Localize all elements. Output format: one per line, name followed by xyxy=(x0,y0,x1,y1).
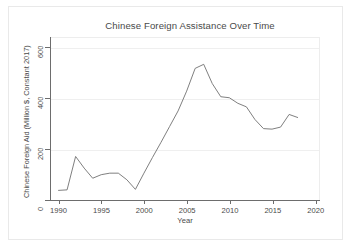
x-tick-label: 2000 xyxy=(124,206,164,215)
y-tick-mark xyxy=(45,200,50,201)
y-axis-title: Chinese Foreign Aid (Million $, Constant… xyxy=(22,45,31,198)
chart-title: Chinese Foreign Assistance Over Time xyxy=(50,20,330,31)
x-tick-mark xyxy=(316,200,317,204)
x-tick-mark xyxy=(59,200,60,204)
x-tick-mark xyxy=(187,200,188,204)
y-tick-mark xyxy=(45,47,50,48)
x-tick-mark xyxy=(273,200,274,204)
data-line-series xyxy=(50,38,319,200)
x-axis-title: Year xyxy=(50,216,320,225)
x-tick-label: 2010 xyxy=(210,206,250,215)
y-tick-mark xyxy=(45,149,50,150)
x-tick-mark xyxy=(230,200,231,204)
x-tick-label: 2005 xyxy=(167,206,207,215)
chart-figure: Chinese Foreign Assistance Over Time 020… xyxy=(0,0,351,246)
x-tick-label: 2020 xyxy=(296,206,336,215)
x-axis xyxy=(50,200,320,201)
y-axis xyxy=(50,37,51,200)
y-tick-label: 200 xyxy=(36,148,45,160)
y-tick-label: 600 xyxy=(36,46,45,58)
x-tick-label: 2015 xyxy=(253,206,293,215)
y-tick-label: 400 xyxy=(36,97,45,109)
x-tick-mark xyxy=(101,200,102,204)
plot-area xyxy=(50,37,320,200)
x-tick-mark xyxy=(144,200,145,204)
x-tick-label: 1990 xyxy=(39,206,79,215)
x-tick-label: 1995 xyxy=(81,206,121,215)
y-tick-mark xyxy=(45,98,50,99)
